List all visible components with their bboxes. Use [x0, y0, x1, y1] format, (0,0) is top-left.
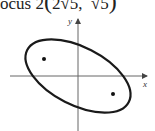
- ellipse-diagram: x y: [0, 0, 155, 131]
- y-axis-label: y: [67, 16, 72, 26]
- focus-point-1: [42, 57, 46, 61]
- focus-point-2: [111, 92, 115, 96]
- x-axis-label: x: [142, 79, 147, 89]
